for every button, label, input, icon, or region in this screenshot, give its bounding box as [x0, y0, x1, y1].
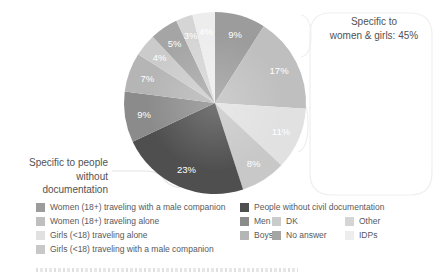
legend-swatch-icon	[345, 217, 354, 226]
pie-slice-label-10: 4%	[199, 26, 213, 37]
legend-item: DK	[272, 214, 345, 228]
legend-row: BoysNo answerIDPs	[240, 228, 384, 242]
legend-swatch-icon	[240, 217, 249, 226]
pie-slice-label-4: 23%	[177, 164, 197, 175]
legend-label: Other	[359, 216, 380, 226]
legend-row: Women (18+) traveling with a male compan…	[36, 200, 240, 214]
pie-slice-label-2: 11%	[272, 126, 291, 137]
legend-column-left: Women (18+) traveling with a male compan…	[36, 200, 240, 256]
legend-swatch-icon	[36, 217, 45, 226]
pie-slice-label-6: 7%	[141, 73, 155, 84]
pie-slice-label-7: 4%	[153, 52, 167, 63]
cut-off-caption-text	[36, 268, 298, 272]
legend-item: People without civil documentation	[240, 200, 384, 214]
pie-slice-label-3: 8%	[247, 158, 261, 169]
legend-swatch-icon	[36, 231, 45, 240]
pie-slices-group	[124, 12, 306, 194]
legend-label: Girls (<18) traveling alone	[50, 230, 148, 240]
legend-item: Girls (<18) traveling alone	[36, 228, 148, 242]
legend-label: Women (18+) traveling with a male compan…	[50, 202, 225, 212]
pie-slice-label-5: 9%	[137, 109, 151, 120]
legend-item: No answer	[272, 228, 345, 242]
annotation-women-girls: Specific to women & girls: 45%	[326, 15, 422, 42]
legend-column-right: People without civil documentationMenDKO…	[240, 200, 384, 256]
legend-label: No answer	[286, 230, 327, 240]
legend-item: Men	[240, 214, 272, 228]
legend-label: IDPs	[359, 230, 377, 240]
legend-swatch-icon	[272, 217, 281, 226]
legend-label: Women (18+) traveling alone	[50, 216, 159, 226]
legend-label: Men	[254, 216, 271, 226]
legend-item: Boys	[240, 228, 272, 242]
annotation-documentation-line2: without documentation	[8, 170, 108, 197]
legend-label: DK	[286, 216, 298, 226]
pie-slice-label-8: 5%	[168, 38, 182, 49]
legend-item: Women (18+) traveling with a male compan…	[36, 200, 225, 214]
pie-slice-label-9: 3%	[184, 30, 198, 41]
legend-row: Women (18+) traveling alone	[36, 214, 240, 228]
legend-label: Girls (<18) traveling with a male compan…	[50, 244, 214, 254]
legend-label: Boys	[254, 230, 273, 240]
pie-slice-label-1: 17%	[270, 65, 290, 76]
pie-slice-label-0: 9%	[228, 29, 242, 40]
pie-chart-figure: 9%17%11%8%23%9%7%4%5%3%4% Specific to wo…	[0, 0, 436, 273]
legend-row: People without civil documentation	[240, 200, 384, 214]
legend-swatch-icon	[345, 231, 354, 240]
legend-item: Girls (<18) traveling with a male compan…	[36, 242, 214, 256]
chart-legend: Women (18+) traveling with a male compan…	[36, 200, 384, 256]
legend-row: MenDKOther	[240, 214, 384, 228]
legend-swatch-icon	[240, 203, 249, 212]
legend-swatch-icon	[36, 203, 45, 212]
legend-swatch-icon	[36, 245, 45, 254]
annotation-documentation: Specific to people without documentation	[8, 156, 108, 197]
annotation-women-girls-line2: women & girls: 45%	[326, 29, 422, 43]
legend-swatch-icon	[240, 231, 249, 240]
legend-item: Other	[345, 214, 380, 228]
legend-item: Women (18+) traveling alone	[36, 214, 159, 228]
legend-row: Girls (<18) traveling with a male compan…	[36, 242, 240, 256]
annotation-women-girls-line1: Specific to	[326, 15, 422, 29]
annotation-documentation-line1: Specific to people	[8, 156, 108, 170]
legend-label: People without civil documentation	[254, 202, 384, 212]
legend-row: Girls (<18) traveling alone	[36, 228, 240, 242]
legend-swatch-icon	[272, 231, 281, 240]
legend-item: IDPs	[345, 228, 377, 242]
